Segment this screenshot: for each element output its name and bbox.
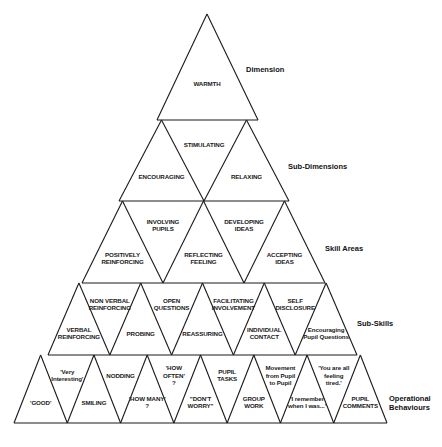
triangle-edge bbox=[162, 120, 205, 201]
triangle-edge bbox=[41, 355, 68, 423]
triangle-edge bbox=[264, 283, 295, 355]
pyramid-cell-label: ENCOURAGING bbox=[139, 173, 185, 180]
pyramid-cell-label: PUPILTASKS bbox=[217, 368, 237, 382]
pyramid-cell-label: RELAXING bbox=[231, 173, 262, 180]
pyramid-cell-label: REASSURING bbox=[182, 330, 223, 337]
pyramid-lines bbox=[14, 14, 387, 423]
pyramid-cell-label: OPENQUESTIONS bbox=[154, 297, 190, 311]
triangle-edge bbox=[244, 201, 285, 283]
pyramid-cell-label: "DON'TWORRY" bbox=[188, 395, 214, 409]
pyramid-cell-label: STIMULATING bbox=[184, 141, 225, 148]
triangle-edge bbox=[203, 283, 234, 355]
triangle-edge bbox=[201, 355, 228, 423]
triangle-edge bbox=[204, 201, 245, 283]
pyramid-cell-label: INDIVIDUALCONTACT bbox=[247, 326, 282, 340]
level-label-dimension: Dimension bbox=[246, 65, 284, 74]
triangle-edge bbox=[247, 120, 290, 201]
triangle-edge bbox=[326, 283, 357, 355]
pyramid-cell-label: 'HOW MANY'? bbox=[129, 395, 167, 409]
level-label-skill-areas: Skill Areas bbox=[325, 244, 363, 253]
level-label-operational-line1: Operational bbox=[389, 394, 431, 403]
pyramid-cell-label: POSITIVELYREINFORCING bbox=[101, 251, 143, 265]
pyramid-cell-label: SELFDISCLOSURE bbox=[275, 297, 315, 311]
triangle-edge bbox=[121, 355, 148, 423]
triangle-edge bbox=[67, 355, 94, 423]
triangle-edge bbox=[14, 355, 41, 423]
pyramid-cell-label: Movementfrom Pupilto Pupil bbox=[266, 364, 296, 385]
level-label-sub-dimensions: Sub-Dimensions bbox=[288, 162, 347, 171]
triangle-edge bbox=[157, 14, 207, 120]
triangle-edge bbox=[141, 283, 172, 355]
pyramid-cell-label: INVOLVINGPUPILS bbox=[147, 218, 180, 232]
pyramid-cell-label: 'I rememberwhen I was...' bbox=[287, 395, 327, 409]
triangle-edge bbox=[295, 283, 326, 355]
level-label-operational-behaviours: Operational Behaviours bbox=[389, 394, 431, 412]
triangle-edge bbox=[79, 283, 110, 355]
triangle-edge bbox=[285, 201, 326, 283]
triangle-edge bbox=[360, 355, 387, 423]
triangle-edge bbox=[123, 201, 164, 283]
pyramid-cell-label: GROUPWORK bbox=[243, 395, 265, 409]
pyramid-cell-label: WARMTH bbox=[193, 80, 221, 87]
pyramid-cell-label: 'GOOD' bbox=[30, 399, 52, 406]
pyramid-cell-label: ACCEPTINGIDEAS bbox=[267, 251, 303, 265]
level-label-sub-skills: Sub-Skills bbox=[357, 319, 393, 328]
pyramid-cell-label: DEVELOPINGIDEAS bbox=[224, 218, 264, 232]
triangle-edge bbox=[48, 283, 79, 355]
triangle-edge bbox=[227, 355, 254, 423]
pyramid-cell-label: 'VeryInteresting' bbox=[51, 368, 84, 382]
pyramid-cell-label: 'HOWOFTEN'? bbox=[163, 364, 185, 385]
triangle-edge bbox=[94, 355, 121, 423]
skills-pyramid-diagram: WARMTHENCOURAGINGSTIMULATINGRELAXINGPOSI… bbox=[0, 0, 442, 447]
triangle-edge bbox=[163, 201, 204, 283]
pyramid-cell-label: SMILING bbox=[81, 399, 106, 406]
pyramid-cell-label: FACILITATINGINVOLVEMENT bbox=[212, 297, 255, 311]
triangle-edge bbox=[119, 120, 162, 201]
pyramid-cell-label: REFLECTINGFEELING bbox=[184, 251, 223, 265]
triangle-edge bbox=[82, 201, 123, 283]
pyramid-cell-label: NON VERBALREINFORCING bbox=[89, 297, 131, 311]
level-label-operational-line2: Behaviours bbox=[389, 403, 431, 412]
pyramid-cell-label: NODDING bbox=[106, 372, 135, 379]
pyramid-cell-label: VERBALREINFORCING bbox=[58, 326, 100, 340]
pyramid-cell-label: PUPILCOMMENTS bbox=[343, 395, 378, 409]
pyramid-cell-label: PROBING bbox=[127, 330, 155, 337]
pyramid-cell-label: 'You are allfeelingtired.' bbox=[318, 364, 349, 385]
triangle-edge bbox=[172, 283, 203, 355]
triangle-edge bbox=[110, 283, 141, 355]
pyramid-cell-label: EncouragingPupil Questions bbox=[303, 326, 349, 340]
triangle-edge bbox=[233, 283, 264, 355]
triangle-edge bbox=[204, 120, 247, 201]
